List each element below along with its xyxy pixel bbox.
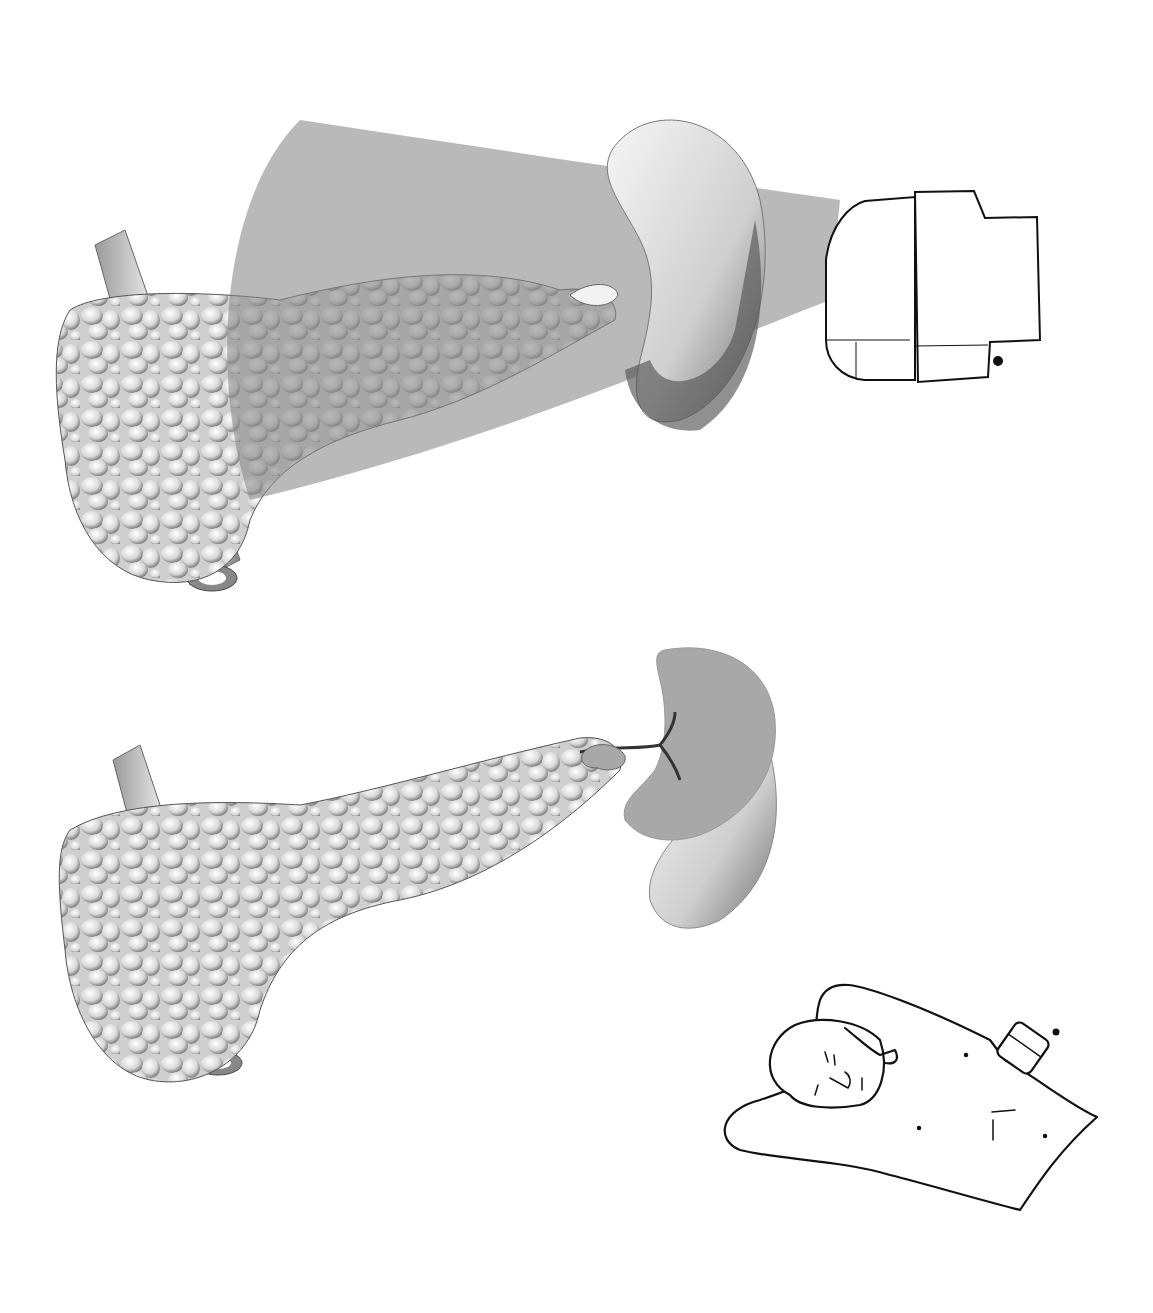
illustration-canvas: [0, 0, 1153, 1313]
patient-head: [770, 1020, 884, 1108]
inset-probe-orientation-marker: [1053, 1029, 1060, 1036]
top-panel: [56, 120, 1040, 591]
bottom-panel: [59, 648, 776, 1082]
patient-inset: [725, 985, 1097, 1210]
ultrasound-probe: [826, 191, 1040, 382]
probe-orientation-marker: [993, 356, 1003, 366]
patient-body: [725, 985, 1097, 1210]
spleen-section: [624, 648, 776, 928]
